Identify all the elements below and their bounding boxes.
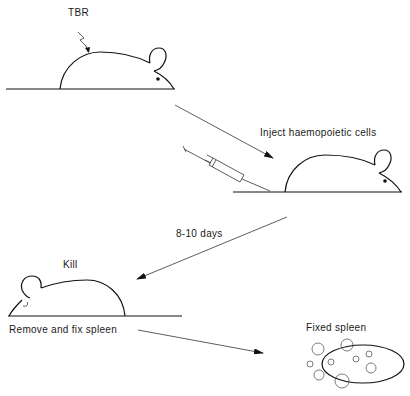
diagram-canvas: TBR Inject haemopoietic cells 8-10 days … [0, 0, 410, 396]
tbr-label: TBR [68, 7, 89, 18]
interval-label: 8-10 days [176, 228, 223, 239]
inject-label: Inject haemopoietic cells [260, 127, 376, 138]
spleen-icon [307, 339, 404, 388]
killed-mouse-icon [8, 276, 182, 316]
arrow-to-injection-icon [175, 105, 273, 158]
fixed-spleen-label: Fixed spleen [306, 322, 366, 333]
syringe-icon [183, 146, 270, 191]
lightning-bolt-icon [78, 32, 90, 53]
kill-label: Kill [63, 259, 78, 270]
irradiated-mouse-icon [6, 48, 175, 89]
remove-spleen-label: Remove and fix spleen [9, 324, 117, 335]
arrow-to-spleen-icon [138, 330, 263, 353]
arrow-wait-icon [137, 217, 287, 279]
